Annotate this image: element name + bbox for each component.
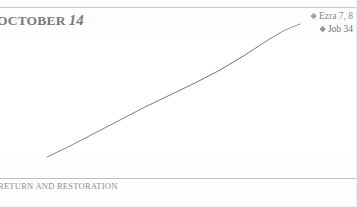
readings-legend: ❖Ezra 7, 8 ❖Job 34 bbox=[310, 10, 353, 36]
date-day: 14 bbox=[69, 12, 84, 28]
date-month: OCTOBER bbox=[0, 13, 66, 28]
curve-series-line bbox=[47, 24, 300, 157]
floret-bullet-icon: ❖ bbox=[310, 12, 317, 21]
reading-label: Job 34 bbox=[328, 24, 353, 34]
footer-rule bbox=[0, 178, 357, 179]
floret-bullet-icon: ❖ bbox=[319, 25, 326, 34]
progress-curve-chart bbox=[0, 0, 357, 207]
list-item[interactable]: ❖Ezra 7, 8 bbox=[310, 10, 353, 23]
document-page: OCTOBER14 ❖Ezra 7, 8 ❖Job 34 RETURN AND … bbox=[0, 0, 357, 207]
header-rule bbox=[0, 7, 357, 8]
reading-label: Ezra 7, 8 bbox=[319, 11, 353, 21]
footer-title: RETURN AND RESTORATION bbox=[0, 181, 118, 191]
list-item[interactable]: ❖Job 34 bbox=[310, 23, 353, 36]
page-title: OCTOBER14 bbox=[0, 12, 84, 29]
scan-texture-overlay bbox=[0, 0, 357, 207]
